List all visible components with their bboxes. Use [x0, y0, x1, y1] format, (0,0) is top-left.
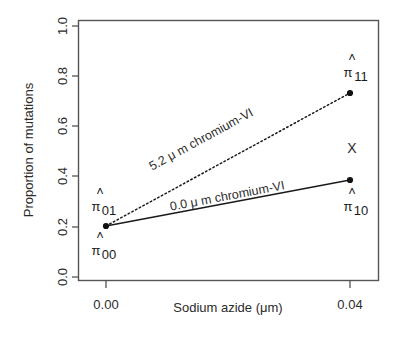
pi01-hat: ˄: [96, 184, 104, 199]
point-label-pi01: ˄ π 01: [92, 184, 117, 218]
y-tick-label-0.2: 0.2: [55, 218, 70, 236]
pi11-sub: 11: [354, 69, 368, 84]
point-label-pi00: ˄ π 00: [92, 228, 117, 262]
annotation-x-marker: X: [347, 140, 357, 156]
point-label-pi11: ˄ π 11: [344, 50, 368, 84]
x-tick-label-0.00: 0.00: [93, 297, 118, 312]
pi10-hat: ˄: [348, 184, 356, 199]
y-tick-label-0.4: 0.4: [55, 167, 70, 185]
data-point-x0-base: [103, 223, 109, 229]
chart-figure: 1.0 0.8 0.6 0.4 0.2 0.0 Proportion of mu…: [0, 0, 399, 337]
pi01-base: π: [92, 199, 101, 214]
y-tick-label-0.6: 0.6: [55, 117, 70, 135]
pi11-hat: ˄: [348, 50, 356, 65]
pi11-base: π: [344, 65, 353, 80]
point-label-pi10: ˄ π 10: [344, 184, 369, 218]
pi00-hat: ˄: [96, 228, 104, 243]
data-point-chromium-5.2-x004: [347, 90, 353, 96]
y-axis-ticks: [72, 26, 79, 277]
y-axis-tick-labels: 1.0 0.8 0.6 0.4 0.2 0.0: [55, 17, 70, 286]
data-point-chromium-0.0-x004: [347, 177, 353, 183]
plot-frame: [79, 21, 379, 281]
pi00-sub: 00: [102, 247, 116, 262]
pi10-base: π: [344, 199, 353, 214]
y-tick-label-1.0: 1.0: [55, 17, 70, 35]
pi01-sub: 01: [102, 203, 116, 218]
x-axis-ticks: [106, 281, 350, 289]
series-line-chromium-5.2: [106, 93, 350, 226]
y-tick-label-0.8: 0.8: [55, 67, 70, 85]
pi00-base: π: [92, 243, 101, 258]
pi10-sub: 10: [354, 203, 368, 218]
y-axis-title: Proportion of mutations: [21, 82, 36, 217]
chart-canvas: 1.0 0.8 0.6 0.4 0.2 0.0 Proportion of mu…: [0, 0, 399, 337]
x-axis-title: Sodium azide (μm): [173, 300, 282, 315]
y-tick-label-0.0: 0.0: [55, 268, 70, 286]
x-tick-label-0.04: 0.04: [337, 297, 362, 312]
series-label-chromium-5.2: 5.2 μ m chromium-VI: [147, 106, 256, 174]
